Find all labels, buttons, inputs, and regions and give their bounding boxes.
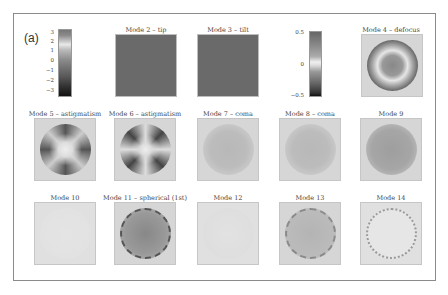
mode-5-image [34,118,96,181]
mode-title: Mode 5 – astigmatism [29,110,101,118]
colorbar-large-tick: 0 [40,57,54,63]
colorbar-large-tick: 3 [40,29,54,35]
mode-6-image [114,118,176,181]
colorbar-large-tick: −2 [40,77,54,83]
mode-14-image [360,202,422,265]
mode-4-image [361,34,423,97]
mode-9-image [360,118,422,181]
colorbar-small [309,31,322,97]
mode-7-image [197,118,259,181]
mode-3-image [197,34,259,97]
mode-title: Mode 12 [214,194,243,202]
mode-title: Mode 6 – astigmatism [109,110,181,118]
mode-10-image [34,202,96,265]
mode-title: Mode 8 – coma [285,110,335,118]
colorbar-large-tick: −3 [40,87,54,93]
mode-title: Mode 13 [296,194,325,202]
colorbar-small-tick: 0.5 [290,29,304,35]
colorbar-small-tick: −0.5 [290,92,304,98]
mode-12-image [197,202,259,265]
mode-title: Mode 4 – defocus [362,26,420,34]
mode-2-image [115,34,177,97]
mode-title: Mode 2 – tip [125,26,166,34]
mode-title: Mode 7 – coma [203,110,253,118]
colorbar-large-tick: 2 [40,38,54,44]
mode-title: Mode 11 – spherical (1st) [103,194,187,202]
colorbar-large-tick: 1 [40,47,54,53]
mode-13-image [279,202,341,265]
mode-title: Mode 3 – tilt [207,26,249,34]
mode-11-image [114,202,176,265]
mode-8-image [279,118,341,181]
mode-title: Mode 10 [51,194,80,202]
panel-label: (a) [24,31,39,45]
mode-title: Mode 9 [379,110,404,118]
colorbar-large-tick: −1 [40,67,54,73]
colorbar-large [58,29,72,97]
colorbar-small-tick: 0 [290,61,304,67]
mode-title: Mode 14 [377,194,406,202]
